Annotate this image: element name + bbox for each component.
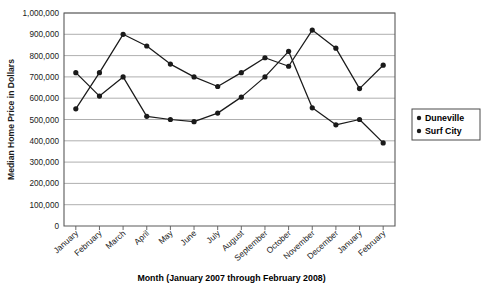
data-point: [73, 106, 78, 111]
y-axis-tick-label: 300,000: [29, 158, 59, 167]
legend: DunevilleSurf City: [412, 109, 480, 140]
x-axis-tick-label: May: [156, 228, 175, 247]
x-axis-tick-label: July: [204, 228, 222, 246]
data-point: [168, 62, 173, 67]
data-point: [168, 117, 173, 122]
x-axis-tick-label: April: [132, 228, 151, 247]
data-point: [262, 74, 267, 79]
legend-marker: [417, 129, 421, 133]
data-point: [286, 49, 291, 54]
data-point: [121, 74, 126, 79]
data-point: [357, 117, 362, 122]
y-axis-tick-label: 0: [54, 222, 59, 231]
data-point: [239, 95, 244, 100]
legend-label: Surf City: [425, 126, 462, 136]
data-point: [262, 55, 267, 60]
data-point: [286, 64, 291, 69]
data-point: [381, 140, 386, 145]
data-point: [310, 105, 315, 110]
series-line: [76, 30, 383, 109]
y-axis-title: Median Home Price in Dollars: [6, 59, 16, 180]
legend-label: Duneville: [425, 113, 464, 123]
data-point: [144, 43, 149, 48]
data-point: [333, 122, 338, 127]
x-axis-tick-label: June: [178, 228, 198, 248]
data-point: [215, 84, 220, 89]
data-point: [333, 46, 338, 51]
data-point: [97, 70, 102, 75]
data-point: [121, 32, 126, 37]
data-point: [215, 111, 220, 116]
series-duneville: [73, 27, 386, 111]
y-axis-tick-label: 400,000: [29, 137, 59, 146]
legend-marker: [417, 116, 421, 120]
data-point: [73, 70, 78, 75]
data-point: [239, 70, 244, 75]
x-axis-tick-label: March: [103, 228, 127, 251]
data-point: [144, 114, 149, 119]
data-point: [191, 74, 196, 79]
data-point: [310, 27, 315, 32]
series-line: [76, 51, 383, 143]
x-axis-title: Month (January 2007 through February 200…: [137, 273, 325, 283]
y-axis-tick-label: 600,000: [29, 94, 59, 103]
y-axis-tick-label: 700,000: [29, 73, 59, 82]
chart-canvas: 0100,000200,000300,000400,000500,000600,…: [0, 0, 484, 292]
line-chart: 0100,000200,000300,000400,000500,000600,…: [0, 0, 484, 292]
y-axis-tick-label: 200,000: [29, 179, 59, 188]
y-axis-tick-label: 500,000: [29, 116, 59, 125]
y-axis-tick-label: 100,000: [29, 201, 59, 210]
data-point: [381, 63, 386, 68]
data-point: [191, 119, 196, 124]
y-axis-tick-label: 800,000: [29, 52, 59, 61]
series-surf-city: [73, 49, 386, 146]
data-point: [97, 93, 102, 98]
y-axis-tick-label: 1,000,000: [23, 9, 60, 18]
data-point: [357, 86, 362, 91]
y-axis-tick-label: 900,000: [29, 30, 59, 39]
